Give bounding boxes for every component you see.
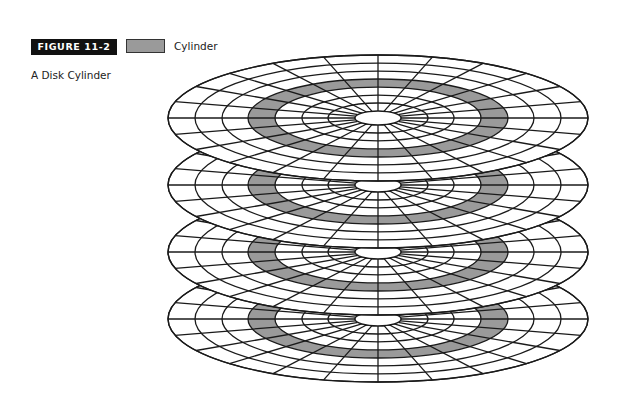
platter-1 <box>168 55 588 181</box>
disk-platter-stack <box>0 0 624 400</box>
spindle-hub <box>355 111 401 125</box>
